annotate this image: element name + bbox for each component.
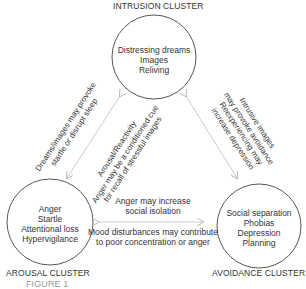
intrusion-item: Images [112,55,196,65]
intrusion-item: Distressing dreams [112,45,196,55]
link-text-line: Anger may increase [100,196,206,206]
avoidance-item: Depression [216,228,302,238]
figure-caption: FIGURE 1 [26,279,68,289]
arousal-item: Startle [8,214,92,224]
link-text-line: social isolation [100,206,206,216]
link-text-line: Mood disturbances may contribute [86,227,220,237]
avoidance-item: Phobias [216,218,302,228]
intrusion-item: Reliving [112,65,196,75]
avoidance-item: Social separation [216,208,302,218]
avoidance-item: Planning [216,238,302,248]
link-avoidance-to-arousal: Mood disturbances may contribute to poor… [86,227,220,247]
intrusion-cluster-label: INTRUSION CLUSTER [113,1,204,11]
link-text-line: to poor concentration or anger [86,237,220,247]
arousal-item: Anger [8,204,92,214]
link-arousal-to-avoidance: Anger may increase social isolation [100,196,206,216]
intrusion-items: Distressing dreams Images Reliving [112,45,196,75]
arousal-items: Anger Startle Attentional loss Hypervigi… [8,204,92,244]
avoidance-cluster-label: AVOIDANCE CLUSTER [212,268,305,278]
avoidance-items: Social separation Phobias Depression Pla… [216,208,302,248]
arousal-item: Hypervigilance [8,234,92,244]
arousal-cluster-label: AROUSAL CLUSTER [6,268,90,278]
arousal-item: Attentional loss [8,224,92,234]
